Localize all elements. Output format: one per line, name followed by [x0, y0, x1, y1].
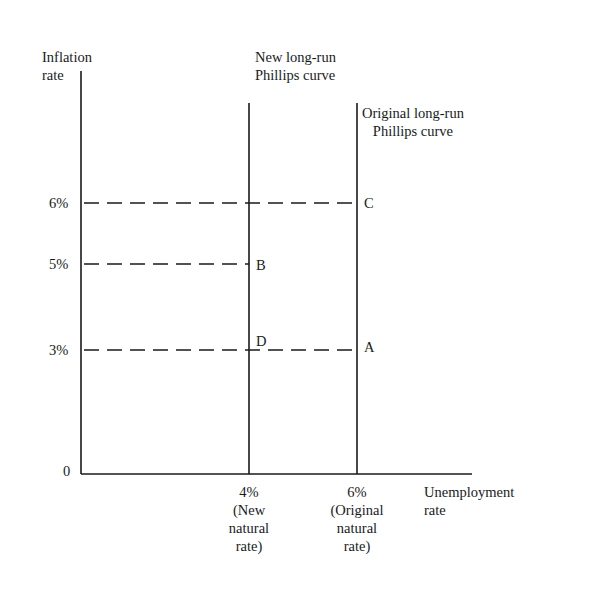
- origin-label: 0: [63, 462, 70, 480]
- point-a: A: [364, 338, 374, 356]
- y-tick-3pct: 3%: [49, 341, 68, 359]
- original-curve-label: Original long-run Phillips curve: [362, 104, 464, 140]
- point-c: C: [364, 194, 374, 212]
- new-curve-label: New long-run Phillips curve: [255, 48, 336, 84]
- x-tick-6pct: 6% (Original natural rate): [316, 483, 398, 555]
- point-d: D: [256, 332, 266, 350]
- y-axis-title: Inflation rate: [42, 48, 92, 84]
- point-b: B: [256, 256, 266, 274]
- x-tick-4pct: 4% (New natural rate): [216, 483, 282, 555]
- y-tick-5pct: 5%: [49, 255, 68, 273]
- y-tick-6pct: 6%: [49, 194, 68, 212]
- x-axis-title: Unemployment rate: [424, 483, 514, 519]
